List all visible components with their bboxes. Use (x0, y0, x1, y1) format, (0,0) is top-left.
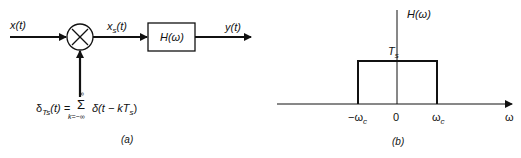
sum-lower: k=−∞ (68, 113, 85, 120)
delta-sub: Ts (42, 108, 50, 117)
h-axis-label: H(ω) (407, 9, 431, 20)
output-label: y(t) (225, 22, 241, 33)
rhs-main: δ(t − kT (92, 102, 130, 114)
impulse-train-lhs: δTs(t) = (36, 103, 70, 114)
tick-omega-c: ωc (432, 112, 445, 123)
rhs-sub: s (130, 108, 134, 117)
height-label: Ts (388, 46, 399, 57)
caption-b: (b) (392, 136, 404, 147)
tick-zero: 0 (393, 112, 399, 123)
sum-symbol: Σ (77, 98, 85, 111)
sampled-signal-label: xs(t) (107, 21, 127, 32)
block-diagram (10, 23, 251, 97)
sampled-main: x (107, 20, 113, 32)
tick-sub: c (363, 117, 367, 126)
caption-a: (a) (121, 134, 133, 145)
tick-main: −ω (348, 111, 363, 123)
omega-axis-label: ω (505, 112, 514, 123)
height-main: T (388, 45, 395, 57)
filter-label: H(ω) (160, 32, 184, 43)
height-sub: s (395, 51, 399, 60)
tick-sub: c (441, 117, 445, 126)
sum-upper: ∞ (79, 90, 84, 97)
impulse-train-rhs: δ(t − kTs) (92, 103, 137, 114)
sampled-sub: s (113, 26, 117, 35)
tick-neg-omega-c: −ωc (348, 112, 367, 123)
input-label: x(t) (10, 20, 26, 31)
diagram-canvas (0, 0, 521, 158)
tick-main: ω (432, 111, 441, 123)
sampled-tail: (t) (117, 20, 127, 32)
rhs-close: ) (134, 102, 138, 114)
